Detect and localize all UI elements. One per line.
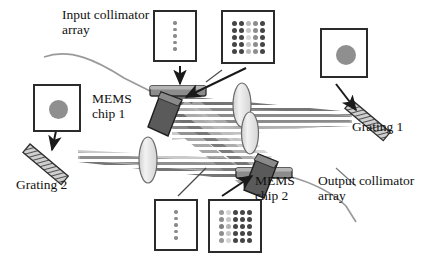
spot [240,217,245,222]
lens-lower [139,137,157,183]
spot [174,223,178,227]
spot [253,35,258,40]
spot [219,210,224,215]
spot [233,238,238,243]
spot [226,238,231,243]
spot [232,35,237,40]
spot [239,49,244,54]
spot [247,217,252,222]
spot [173,47,177,51]
label-grating-2: Grating 2 [16,178,106,193]
spot [174,230,178,234]
spot [219,217,224,222]
spot [174,236,178,240]
spot [232,28,237,33]
leader-arrow-grating-1 [336,84,356,110]
spot [253,28,258,33]
spot [219,224,224,229]
spot [260,28,265,33]
spot [239,21,244,26]
spot [253,42,258,47]
spot-matrix [223,12,273,62]
spot [233,231,238,236]
spot [253,21,258,26]
spot [240,231,245,236]
spot [226,217,231,222]
spot [253,49,258,54]
label-output-collimator-array: Output collimator array [318,174,426,203]
figure-canvas: Input collimator array MEMS chip 1 Grati… [0,0,429,263]
spot [232,21,237,26]
spot [240,238,245,243]
spot [247,231,252,236]
spot [174,210,178,214]
spot [173,21,177,25]
spot [246,28,251,33]
spot [173,41,177,45]
spot [239,42,244,47]
grating-2-focused-spot [33,84,81,132]
mems-chip-1-spot-matrix [221,10,275,64]
spot [173,28,177,32]
spot [233,217,238,222]
mems-chip-2-spot-matrix [208,199,262,253]
spot [174,217,178,221]
spot [233,224,238,229]
spot [173,34,177,38]
label-grating-1: Grating 1 [352,120,429,135]
spot [260,49,265,54]
lens-middle [242,112,259,154]
spot [246,21,251,26]
spot [246,49,251,54]
spot-column [156,201,196,249]
spot [232,42,237,47]
focused-spot [49,100,68,119]
spot [226,224,231,229]
grating-1-focused-spot [320,28,368,78]
spot [247,238,252,243]
spot [240,224,245,229]
spot [247,210,252,215]
spot [233,210,238,215]
spot [219,231,224,236]
spot [260,35,265,40]
spot [260,42,265,47]
spot [246,35,251,40]
label-input-collimator-array: Input collimator array [62,8,172,37]
focused-spot [336,45,356,65]
label-mems-chip-2: MEMS chip 2 [255,174,321,203]
spot-matrix [210,201,260,251]
spot [239,35,244,40]
spot [260,21,265,26]
output-collimator-spot-column [154,199,198,251]
spot [240,210,245,215]
spot [239,28,244,33]
label-mems-chip-1: MEMS chip 1 [92,92,162,121]
spot [246,42,251,47]
spot [226,210,231,215]
spot [219,238,224,243]
spot [247,224,252,229]
spot [226,231,231,236]
spot [232,49,237,54]
